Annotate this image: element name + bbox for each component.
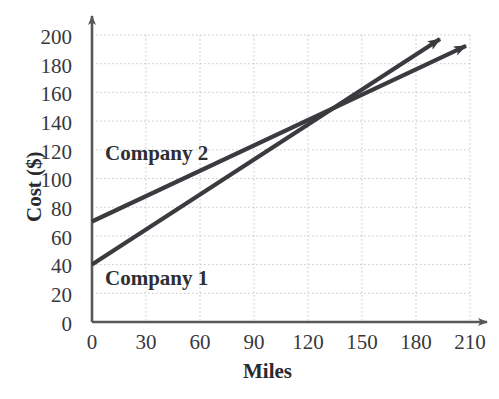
y-tick-label-140: 140: [26, 111, 72, 136]
x-tick-label-150: 150: [339, 330, 385, 355]
x-tick-label-60: 60: [177, 330, 223, 355]
series-label-company-2: Company 2: [105, 141, 208, 166]
y-tick-label-20: 20: [26, 283, 72, 308]
chart-figure: 0 20 40 60 80 100 120 140 160 180 200 0 …: [0, 0, 499, 399]
y-tick-label-160: 160: [26, 82, 72, 107]
y-axis-title: Cost ($): [22, 151, 47, 222]
y-tick-label-180: 180: [26, 54, 72, 79]
x-tick-label-0: 0: [69, 330, 115, 355]
y-tick-label-200: 200: [26, 25, 72, 50]
x-axis-title: Miles: [243, 359, 292, 384]
y-tick-label-60: 60: [26, 226, 72, 251]
x-tick-label-180: 180: [393, 330, 439, 355]
x-tick-label-120: 120: [285, 330, 331, 355]
x-tick-label-210: 210: [447, 330, 493, 355]
x-tick-label-90: 90: [231, 330, 277, 355]
series-label-company-1: Company 1: [105, 266, 208, 291]
x-tick-label-30: 30: [123, 330, 169, 355]
y-tick-label-0: 0: [26, 312, 72, 337]
series-line-company-2: [92, 46, 466, 222]
y-tick-label-40: 40: [26, 254, 72, 279]
